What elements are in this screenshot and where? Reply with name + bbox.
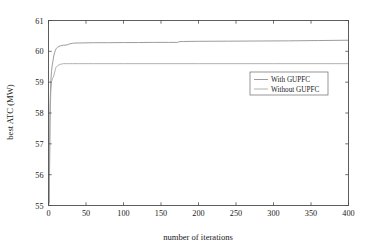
x-tick-label: 200 bbox=[192, 209, 204, 218]
legend-label-1: Without GUPFC bbox=[271, 86, 319, 94]
x-tick-label: 400 bbox=[342, 209, 354, 218]
y-tick-label: 58 bbox=[35, 109, 43, 118]
y-tick-label: 59 bbox=[35, 78, 43, 87]
chart-legend[interactable]: With GUPFCWithout GUPFC bbox=[250, 72, 328, 95]
y-axis-title: best ATC (MW) bbox=[5, 84, 15, 140]
axis-frame bbox=[49, 21, 349, 206]
x-tick-label: 100 bbox=[117, 209, 129, 218]
chart-figure: 050100150200250300350400 55565758596061 … bbox=[0, 0, 369, 248]
x-tick-label: 250 bbox=[230, 209, 242, 218]
y-tick-label: 57 bbox=[35, 140, 43, 149]
x-axis-title: number of iterations bbox=[163, 232, 233, 242]
series-line-0 bbox=[49, 40, 348, 202]
x-tick-label: 0 bbox=[46, 209, 50, 218]
y-tick-labels: 55565758596061 bbox=[35, 17, 43, 211]
y-tick-label: 61 bbox=[35, 17, 43, 26]
y-tick-label: 56 bbox=[35, 171, 43, 180]
x-tick-label: 300 bbox=[267, 209, 279, 218]
y-tick-label: 60 bbox=[35, 47, 43, 56]
plot-frame bbox=[49, 21, 349, 206]
x-tick-labels: 050100150200250300350400 bbox=[46, 209, 354, 218]
series-layer bbox=[49, 40, 348, 204]
legend-label-0: With GUPFC bbox=[271, 76, 310, 84]
x-tick-label: 50 bbox=[82, 209, 90, 218]
x-tick-label: 350 bbox=[305, 209, 317, 218]
y-tick-label: 55 bbox=[35, 202, 43, 211]
x-tick-label: 150 bbox=[155, 209, 167, 218]
atc-convergence-line-chart: 050100150200250300350400 55565758596061 … bbox=[0, 0, 369, 248]
